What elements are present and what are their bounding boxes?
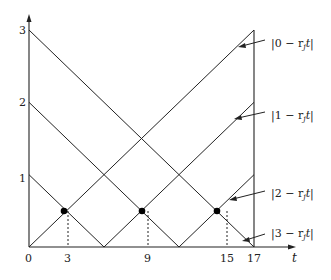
- marker-point: [214, 208, 221, 215]
- arrowhead-icon: [242, 237, 250, 242]
- x-tick-15: 15: [220, 252, 234, 265]
- y-tick-2: 2: [19, 96, 26, 109]
- x-tick-0: 0: [25, 252, 32, 265]
- label-3-minus-rt: |3 − rjt|: [271, 227, 314, 241]
- marker-point: [139, 208, 146, 215]
- x-axis-arrow-icon: [288, 245, 296, 250]
- arrowhead-icon: [229, 196, 237, 201]
- markers: [61, 208, 221, 215]
- arrowheads: [229, 43, 250, 242]
- line-1-minus-rt: [29, 102, 254, 247]
- x-axis-label: t: [292, 251, 297, 265]
- label-1-minus-rt: |1 − rjt|: [271, 109, 314, 123]
- y-tick-3: 3: [19, 24, 26, 37]
- arrow-l2: [233, 191, 265, 199]
- diagram: |0 − rjt| |1 − rjt| |2 − rjt| |3 − rjt| …: [0, 0, 331, 280]
- label-2-minus-rt: |2 − rjt|: [271, 187, 314, 201]
- annotation-arrows: [233, 40, 265, 240]
- y-axis-arrow-icon: [27, 14, 32, 22]
- arrow-l1: [238, 112, 265, 118]
- x-tick-3: 3: [64, 252, 71, 265]
- label-0-minus-rt: |0 − rjt|: [271, 37, 314, 51]
- line-2-minus-rt: [29, 102, 254, 247]
- y-tick-1: 1: [19, 172, 26, 185]
- series-lines: [29, 30, 254, 247]
- arrowhead-icon: [234, 115, 242, 120]
- x-tick-9: 9: [144, 252, 151, 265]
- dashed-guides: [68, 211, 227, 247]
- x-tick-17: 17: [247, 252, 261, 265]
- marker-point: [61, 208, 68, 215]
